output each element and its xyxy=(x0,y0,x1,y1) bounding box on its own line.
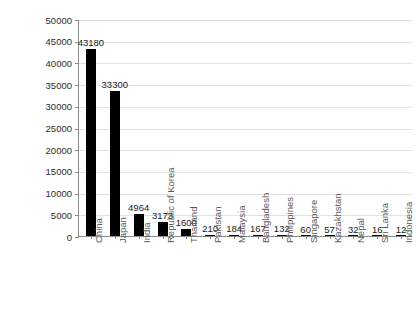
x-axis-tick-mark xyxy=(91,236,92,239)
x-axis-tick-mark xyxy=(115,236,116,239)
x-axis-tick-mark xyxy=(401,236,402,239)
gridline xyxy=(79,194,412,195)
x-axis-category-label: Singapore xyxy=(309,200,319,243)
y-axis-tick-label: 35000 xyxy=(26,81,72,90)
bar xyxy=(86,49,96,236)
y-axis-tick-mark xyxy=(75,85,79,86)
gridline xyxy=(79,42,412,43)
y-axis-tick-mark xyxy=(75,107,79,108)
x-axis-category-label: Indonesia xyxy=(404,202,414,243)
x-axis-category-label: Republic of Korea xyxy=(166,167,176,243)
y-axis-tick-label: 50000 xyxy=(26,16,72,25)
y-axis-tick-mark xyxy=(75,172,79,173)
gridline xyxy=(79,129,412,130)
x-axis-category-label: China xyxy=(94,218,104,243)
y-axis-tick-label: 15000 xyxy=(26,167,72,176)
y-axis-tick-label: 5000 xyxy=(26,211,72,220)
y-axis-tick-mark xyxy=(75,150,79,151)
x-axis-tick-mark xyxy=(234,236,235,239)
y-axis-tick-label: 25000 xyxy=(26,124,72,133)
gridline xyxy=(79,20,412,21)
y-axis-tick-label: 40000 xyxy=(26,59,72,68)
gridline xyxy=(79,63,412,64)
x-axis-tick-mark xyxy=(163,236,164,239)
y-axis-tick-mark xyxy=(75,63,79,64)
y-axis-tick-mark xyxy=(75,237,79,238)
x-axis-tick-mark xyxy=(139,236,140,239)
x-axis-category-label: Pakistan xyxy=(213,207,223,243)
y-axis-tick-mark xyxy=(75,129,79,130)
y-axis-tick-label: 10000 xyxy=(26,189,72,198)
x-axis-category-label: Sri Lanka xyxy=(380,203,390,243)
y-axis-tick-label: 45000 xyxy=(26,37,72,46)
x-axis-category-label: Bangladesh xyxy=(261,193,271,243)
x-axis-category-label: Kazakhstan xyxy=(333,193,343,243)
x-axis-category-label: Nepal xyxy=(356,218,366,243)
bar xyxy=(110,91,120,236)
bar-value-label: 43180 xyxy=(71,38,111,48)
x-axis-tick-mark xyxy=(330,236,331,239)
x-axis-category-label: Philippines xyxy=(285,197,295,243)
y-axis-tick-label: 20000 xyxy=(26,146,72,155)
bar-chart: Total installed capacity (MW) 5000045000… xyxy=(0,0,418,332)
x-axis-category-label: Malaysia xyxy=(237,206,247,244)
y-axis-tick-label: 30000 xyxy=(26,102,72,111)
x-axis-category-label: Thailand xyxy=(189,207,199,243)
gridline xyxy=(79,150,412,151)
x-axis-category-label: Japan xyxy=(118,217,128,243)
x-axis-tick-mark xyxy=(282,236,283,239)
x-axis-tick-mark xyxy=(258,236,259,239)
gridline xyxy=(79,172,412,173)
x-axis-tick-mark xyxy=(306,236,307,239)
y-axis-tick-label: 0 xyxy=(26,233,72,242)
bar-value-label: 33300 xyxy=(95,80,135,90)
gridline xyxy=(79,107,412,108)
x-axis-category-label: India xyxy=(142,222,152,243)
y-axis-tick-mark xyxy=(75,20,79,21)
y-axis-tick-mark xyxy=(75,215,79,216)
y-axis-tick-mark xyxy=(75,194,79,195)
